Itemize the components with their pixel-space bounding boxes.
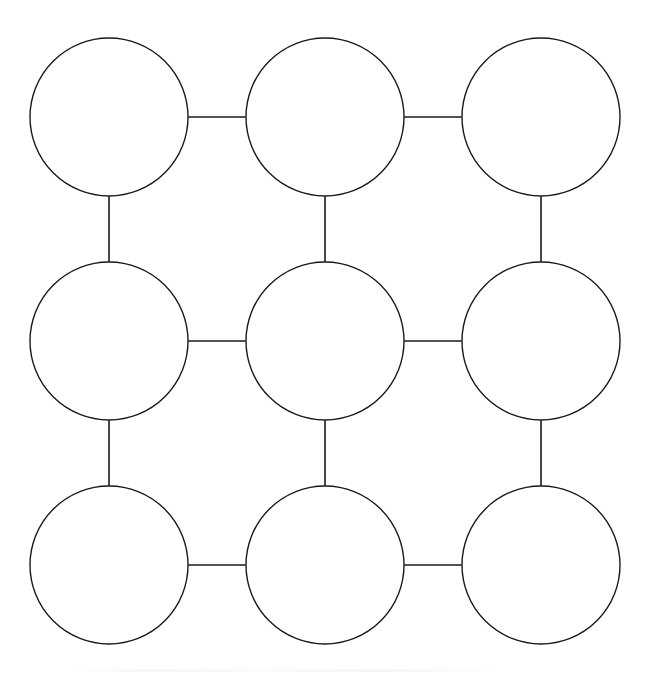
node-circle-r3c1[interactable] bbox=[30, 486, 188, 644]
circle-grid-diagram bbox=[0, 0, 650, 684]
node-circle-r3c3[interactable] bbox=[462, 486, 620, 644]
node-circle-r2c1[interactable] bbox=[30, 262, 188, 420]
node-circle-r2c3[interactable] bbox=[462, 262, 620, 420]
node-circle-r1c3[interactable] bbox=[462, 38, 620, 196]
node-circle-r1c1[interactable] bbox=[30, 38, 188, 196]
node-circle-r3c2[interactable] bbox=[246, 486, 404, 644]
node-group bbox=[30, 38, 620, 644]
node-circle-r1c2[interactable] bbox=[246, 38, 404, 196]
node-circle-r2c2[interactable] bbox=[246, 262, 404, 420]
diagram-canvas bbox=[0, 0, 650, 684]
